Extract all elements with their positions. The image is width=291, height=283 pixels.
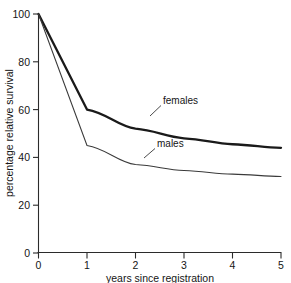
chart-canvas: 0 20 40 60 80 100 0 1 2 3 4 5 years sinc… [0,0,291,283]
y-axis-tick-labels: 0 20 40 60 80 100 [12,8,30,260]
series-line-males [39,14,282,177]
x-tick-label-4: 4 [230,259,236,271]
y-tick-label-100: 100 [12,8,30,20]
x-axis-tick-labels: 0 1 2 3 4 5 [36,259,285,271]
x-axis-title: years since registration [106,272,214,283]
y-tick-label-0: 0 [24,247,30,259]
series-line-females [39,14,282,148]
y-axis-title: percentage relative survival [3,69,15,197]
y-tick-label-40: 40 [18,151,30,163]
males-leader-line [144,149,155,159]
x-axis-ticks [39,253,282,259]
relative-survival-chart: 0 20 40 60 80 100 0 1 2 3 4 5 years sinc… [0,0,291,283]
y-tick-label-20: 20 [18,199,30,211]
y-axis-ticks [33,14,39,253]
x-tick-label-1: 1 [84,259,90,271]
series-label-females: females [163,95,198,106]
x-tick-label-2: 2 [133,259,139,271]
y-tick-label-60: 60 [18,104,30,116]
series-label-males: males [157,138,184,149]
females-leader-line [150,106,161,117]
x-tick-label-5: 5 [278,259,284,271]
y-tick-label-80: 80 [18,56,30,68]
x-tick-label-3: 3 [181,259,187,271]
x-tick-label-0: 0 [36,259,42,271]
